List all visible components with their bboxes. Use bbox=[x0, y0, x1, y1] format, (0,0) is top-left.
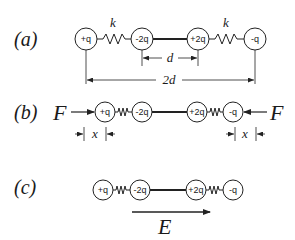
charge-minus-2q: -2q bbox=[132, 102, 152, 122]
svg-text:d: d bbox=[167, 50, 174, 65]
part-b: (b) F F +q -2q +2q -q bbox=[14, 100, 284, 141]
charge-plus-2q: +2q bbox=[187, 102, 207, 122]
svg-text:2d: 2d bbox=[163, 72, 177, 87]
svg-text:+q: +q bbox=[100, 107, 110, 117]
force-left-label: F bbox=[52, 100, 67, 125]
svg-text:x: x bbox=[241, 126, 248, 141]
svg-text:+q: +q bbox=[81, 34, 91, 44]
spring-right-compressed bbox=[206, 186, 223, 194]
dimension-2d: 2d bbox=[87, 72, 254, 87]
svg-text:-2q: -2q bbox=[133, 185, 146, 195]
svg-text:-q: -q bbox=[229, 107, 237, 117]
displacement-right: x bbox=[226, 126, 265, 141]
part-c-label: (c) bbox=[14, 176, 37, 199]
svg-text:+q: +q bbox=[98, 185, 108, 195]
part-a: (a) k k +q -2q +2q -q bbox=[14, 15, 266, 87]
spring-constant-right: k bbox=[223, 15, 229, 30]
charge-minus-q: -q bbox=[223, 102, 243, 122]
displacement-left: x bbox=[75, 126, 115, 141]
force-right-label: F bbox=[269, 100, 284, 125]
spring-constant-left: k bbox=[110, 15, 116, 30]
spring-left bbox=[97, 34, 131, 44]
charge-plus-2q: +2q bbox=[187, 28, 209, 50]
spring-left-compressed bbox=[113, 186, 130, 194]
dipole-spring-diagram: (a) k k +q -2q +2q -q bbox=[0, 0, 295, 240]
charge-minus-q: -q bbox=[223, 180, 243, 200]
svg-text:+2q: +2q bbox=[188, 185, 203, 195]
charge-minus-2q: -2q bbox=[131, 28, 153, 50]
charge-minus-q: -q bbox=[244, 28, 266, 50]
charge-plus-q: +q bbox=[93, 180, 113, 200]
charge-plus-q: +q bbox=[75, 28, 97, 50]
svg-text:-q: -q bbox=[251, 34, 259, 44]
charge-plus-q: +q bbox=[95, 102, 115, 122]
spring-right-compressed bbox=[207, 108, 223, 116]
charge-plus-2q: +2q bbox=[186, 180, 206, 200]
charge-minus-2q: -2q bbox=[130, 180, 150, 200]
svg-text:x: x bbox=[91, 126, 98, 141]
svg-text:+2q: +2q bbox=[190, 34, 205, 44]
part-b-label: (b) bbox=[14, 101, 38, 124]
part-a-label: (a) bbox=[14, 28, 38, 51]
svg-text:-q: -q bbox=[229, 185, 237, 195]
svg-text:-2q: -2q bbox=[135, 34, 148, 44]
electric-field-label: E bbox=[157, 214, 172, 239]
svg-text:+2q: +2q bbox=[189, 107, 204, 117]
dimension-d: d bbox=[143, 50, 197, 65]
svg-text:-2q: -2q bbox=[135, 107, 148, 117]
spring-right bbox=[209, 34, 244, 44]
spring-left-compressed bbox=[115, 108, 132, 116]
part-c: (c) +q -2q +2q -q E bbox=[14, 176, 243, 239]
